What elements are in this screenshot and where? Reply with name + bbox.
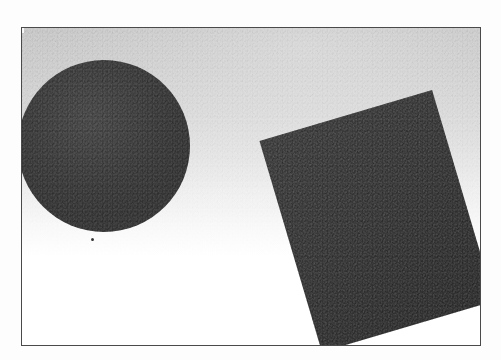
dark-circle-shape xyxy=(21,60,190,232)
framed-plate xyxy=(21,27,481,346)
circle-grain-overlay xyxy=(21,60,190,232)
print-speck-mark xyxy=(91,238,94,241)
artwork-scan xyxy=(0,0,501,360)
